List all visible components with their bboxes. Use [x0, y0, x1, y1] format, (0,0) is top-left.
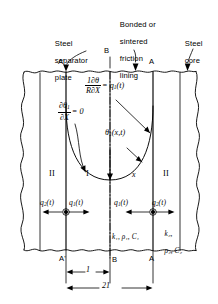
- equation-flux-boundary-condition: 1∂θ R∂X = q1(t): [85, 76, 124, 96]
- fraction-numerator: ∂θ1: [58, 101, 71, 113]
- region-label-II-left: II: [49, 170, 55, 178]
- label-temperature-field: θ1(x,t): [105, 128, 125, 137]
- callout-line: friction: [120, 54, 143, 63]
- equation-rhs: = q1(t): [101, 81, 124, 90]
- fraction-symmetry-bc: ∂θ1 ∂X: [58, 101, 71, 123]
- callout-line: core: [185, 56, 200, 65]
- equation-symmetry-boundary-condition: ∂θ1 ∂X = 0: [58, 101, 84, 123]
- material-properties-lining: k₁, ρ₁, C₁: [112, 233, 139, 241]
- equals-q: = q: [102, 81, 114, 90]
- callout-steel-core: Steel core: [176, 31, 203, 74]
- callout-line: Steel: [55, 39, 73, 48]
- clutch-plate-thermal-diagram: Steel separator plate Bonded or sintered…: [0, 0, 218, 304]
- callout-steel-separator-plate: Steel separator plate: [46, 31, 88, 91]
- section-mark-top-center: B: [104, 47, 109, 55]
- fraction-numerator: 1∂θ: [85, 76, 101, 86]
- equation-rhs: = 0: [71, 107, 84, 116]
- region-label-II-right: II: [163, 170, 169, 178]
- flux-label-q2-left: q2(t): [40, 199, 54, 209]
- fraction-denominator: R∂X: [85, 86, 101, 96]
- callout-line: Steel: [185, 39, 203, 48]
- callout-line: sintered: [120, 37, 148, 46]
- callout-line: Bonded or: [120, 20, 156, 29]
- q-argument: (t): [117, 81, 125, 90]
- material-properties-core: k₂, ρ₂, C₂: [157, 222, 182, 264]
- section-mark-top-right: A: [149, 58, 154, 66]
- section-mark-bottom-center: B: [112, 256, 117, 264]
- flux-label-q1-left: q1(t): [69, 199, 83, 209]
- core-prop-line1: k₂,: [165, 230, 173, 238]
- axis-label-x: x: [132, 171, 136, 179]
- fraction-denominator: ∂X: [58, 113, 71, 123]
- section-mark-bottom-left: A': [59, 255, 66, 263]
- theta-argument: (x,t): [112, 128, 125, 137]
- dimension-label-half-thickness: 1: [86, 266, 90, 274]
- core-prop-line2: ρ₂, C₂: [165, 247, 182, 255]
- callout-line: plate: [55, 73, 72, 82]
- section-mark-top-left: A': [58, 58, 65, 66]
- fraction-flux-bc: 1∂θ R∂X: [85, 76, 101, 96]
- flux-label-q1-right: q1(t): [114, 199, 128, 209]
- region-label-I-left: I: [86, 170, 89, 178]
- dimension-label-full-thickness: 21: [102, 282, 110, 290]
- section-mark-bottom-right: A: [149, 255, 154, 263]
- flux-label-q2-right: q2(t): [152, 199, 166, 209]
